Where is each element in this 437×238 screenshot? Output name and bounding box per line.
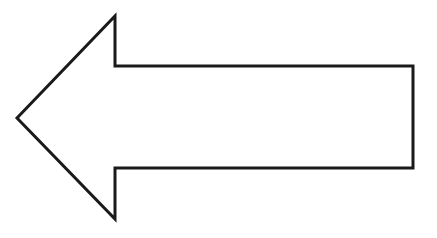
left-arrow-shape bbox=[17, 16, 413, 219]
canvas bbox=[0, 0, 437, 238]
left-arrow-icon bbox=[0, 0, 437, 238]
